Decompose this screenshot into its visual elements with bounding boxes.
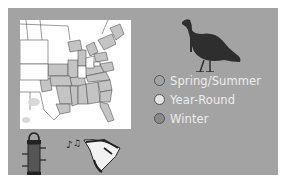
svg-text:♪: ♪ xyxy=(66,139,72,150)
range-info-panel: Spring/Summer Year-Round Winter ♪ ♫ xyxy=(8,8,278,175)
range-map xyxy=(20,20,131,129)
bird-song-icon[interactable]: ♪ ♫ xyxy=(64,134,126,174)
us-range-map-icon xyxy=(20,20,131,129)
legend-label: Spring/Summer xyxy=(170,74,261,88)
winter-swatch-icon xyxy=(154,113,165,124)
wild-turkey-icon xyxy=(180,16,244,72)
legend-label: Winter xyxy=(170,112,209,126)
legend-item-spring-summer: Spring/Summer xyxy=(154,72,261,89)
bird-feeder-icon[interactable] xyxy=(20,132,48,176)
svg-text:♫: ♫ xyxy=(73,138,81,148)
range-legend: Spring/Summer Year-Round Winter xyxy=(154,72,261,129)
legend-label: Year-Round xyxy=(170,93,235,107)
spring-summer-swatch-icon xyxy=(154,75,165,86)
legend-item-year-round: Year-Round xyxy=(154,91,261,108)
legend-item-winter: Winter xyxy=(154,110,261,127)
year-round-swatch-icon xyxy=(154,94,165,105)
